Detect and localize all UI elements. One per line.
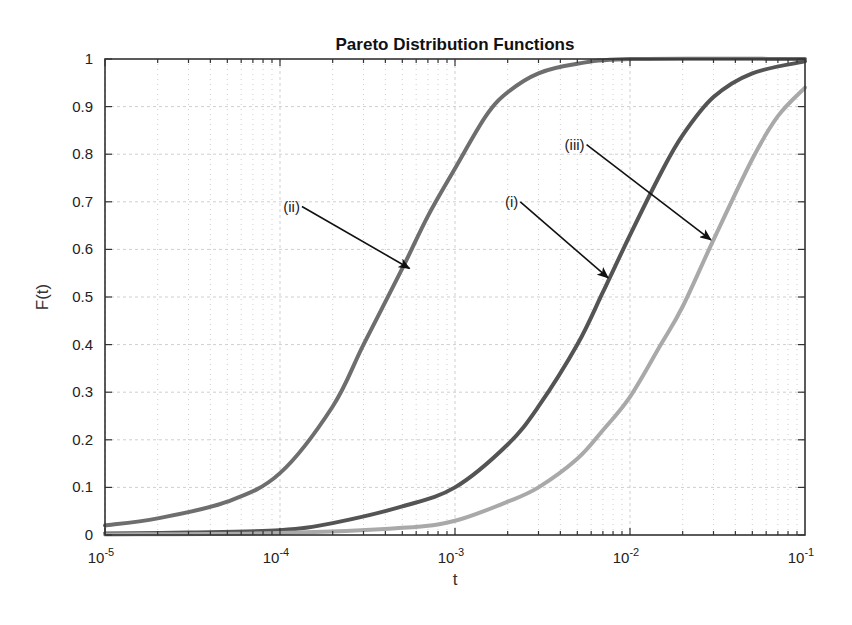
y-tick-label: 0.3	[72, 383, 93, 400]
y-tick-label: 0.5	[72, 288, 93, 305]
y-tick-label: 0.4	[72, 336, 93, 353]
y-tick-label: 0.9	[72, 98, 93, 115]
annotation-label-i: (i)	[505, 193, 518, 210]
x-tick-label: 10-2	[613, 546, 639, 566]
annotation-arrow-icon	[587, 145, 711, 240]
y-tick-label: 0.6	[72, 240, 93, 257]
y-tick-label: 0	[85, 526, 93, 543]
x-tick-label: 10-3	[438, 546, 464, 566]
annotation-arrow-icon	[520, 202, 608, 278]
annotation-arrow-icon	[302, 207, 410, 269]
x-tick-label: 10-4	[263, 546, 289, 566]
x-axis-label: t	[453, 570, 458, 589]
pareto-chart: Pareto Distribution Functions 00.10.20.3…	[0, 0, 852, 625]
annotation-label-iii: (iii)	[565, 136, 585, 153]
y-axis-label: F(t)	[33, 284, 52, 310]
y-tick-label: 0.7	[72, 193, 93, 210]
grid	[105, 59, 805, 535]
y-tick-label: 0.1	[72, 478, 93, 495]
x-tick-label: 10-1	[788, 546, 814, 566]
y-tick-label: 1	[85, 50, 93, 67]
annotation-label-ii: (ii)	[283, 198, 300, 215]
y-tick-label: 0.8	[72, 145, 93, 162]
y-tick-label: 0.2	[72, 431, 93, 448]
annotations: (ii)(i)(iii)	[283, 136, 711, 278]
x-tick-label: 10-5	[88, 546, 114, 566]
axes: 00.10.20.30.40.50.60.70.80.9110-510-410-…	[72, 50, 814, 566]
chart-title: Pareto Distribution Functions	[336, 35, 575, 54]
